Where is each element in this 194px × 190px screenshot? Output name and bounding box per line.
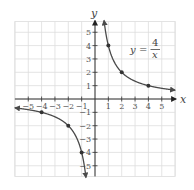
y-tick-label: 4: [86, 42, 91, 51]
x-tick-label: 2: [119, 102, 124, 111]
curve-right-branch: [104, 20, 175, 90]
x-tick-label: 4: [146, 102, 151, 111]
y-tick-label: 2: [86, 68, 91, 77]
data-point: [80, 150, 84, 154]
x-tick-label: −2: [62, 102, 74, 111]
data-point: [120, 70, 124, 74]
y-tick-label: −1: [79, 108, 91, 117]
data-point: [106, 44, 110, 48]
data-point: [146, 84, 150, 88]
equation-annotation: y = 4 x: [129, 37, 160, 60]
x-axis-label: x: [180, 93, 187, 106]
x-tick-label: 5: [159, 102, 164, 111]
data-point: [66, 124, 70, 128]
x-tick-label: −3: [49, 102, 61, 111]
x-tick-label: 3: [133, 102, 138, 111]
function-graph: −5−4−3−2−11234554321−1−2−3−4−5 x y y = 4…: [0, 0, 194, 190]
curve-right-arrow: [104, 20, 175, 90]
y-tick-label: −3: [79, 135, 91, 144]
equation-numerator: 4: [152, 37, 158, 48]
x-tick-label: −4: [36, 102, 48, 111]
y-axis-label: y: [90, 7, 98, 20]
x-tick-label: 1: [106, 102, 111, 111]
y-tick-label: −2: [79, 122, 91, 131]
y-tick-label: 5: [86, 28, 91, 37]
y-tick-label: 1: [86, 82, 91, 91]
curve-left-branch: [15, 108, 86, 178]
curve-left-arrow: [15, 108, 86, 178]
equation-lhs: y: [129, 44, 136, 55]
y-tick-label: 3: [86, 55, 91, 64]
data-point: [40, 110, 44, 114]
equation-equals: =: [139, 44, 147, 55]
equation-denominator: x: [152, 49, 158, 60]
